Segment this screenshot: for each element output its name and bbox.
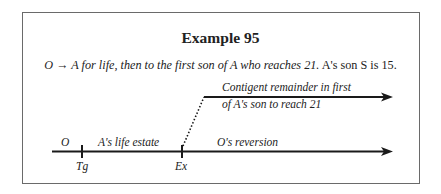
timeline-diagram [0,0,441,194]
reversion-label: O's reversion [217,136,278,148]
timeline-start-label: O [61,136,69,148]
tick-label-ex: Ex [175,160,187,172]
remainder-label-line2: of A's son to reach 21 [222,98,321,110]
tick-label-tg: Tg [76,160,88,172]
dotted-connector [183,97,204,146]
life-estate-label: A's life estate [98,136,159,148]
remainder-label-line1: Contigent remainder in first [222,81,351,93]
